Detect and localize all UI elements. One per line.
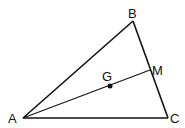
label-c: C [170, 111, 179, 126]
centroid-point [108, 84, 113, 89]
label-g: G [102, 69, 112, 84]
label-m: M [152, 63, 163, 78]
side-ab [23, 21, 133, 118]
median-am [23, 70, 150, 118]
label-b: B [128, 6, 137, 21]
triangle-diagram: A B C M G [0, 0, 185, 128]
label-a: A [8, 111, 17, 126]
